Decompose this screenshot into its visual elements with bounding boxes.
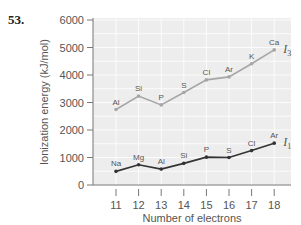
plot-area <box>93 18 291 185</box>
x-tick-label: 14 <box>178 199 190 211</box>
x-tick-label: 12 <box>132 199 144 211</box>
point-label: Cl <box>203 68 211 77</box>
point-label: Ca <box>269 38 280 47</box>
data-point <box>227 75 231 79</box>
data-point <box>205 78 209 82</box>
point-label: Cl <box>248 139 256 148</box>
point-label: S <box>181 81 186 90</box>
data-point <box>182 162 186 166</box>
x-tick-label: 11 <box>110 199 121 211</box>
x-tick-label: 15 <box>200 199 212 211</box>
x-tick-label: 13 <box>155 199 167 211</box>
point-label: P <box>204 145 209 154</box>
x-axis-title: Number of electrons <box>142 212 242 224</box>
point-label: Na <box>111 159 122 168</box>
data-point <box>182 91 186 95</box>
x-tick-label: 18 <box>268 199 280 211</box>
data-point <box>272 48 276 52</box>
point-label: Ar <box>225 65 233 74</box>
data-point <box>137 94 141 98</box>
point-label: K <box>249 52 255 61</box>
data-point <box>159 103 163 107</box>
y-tick-label: 0 <box>78 179 84 191</box>
y-tick-label: 1000 <box>60 152 84 164</box>
data-point <box>137 163 141 167</box>
point-label: Al <box>112 98 119 107</box>
y-tick-label: 6000 <box>60 14 84 26</box>
point-label: Ar <box>270 131 278 140</box>
data-point <box>205 155 209 159</box>
ionization-energy-chart: 0100020003000400050006000111213141516171… <box>0 0 301 225</box>
point-label: Si <box>180 151 187 160</box>
x-tick-label: 17 <box>245 199 257 211</box>
y-axis-title: Ionization energy (kJ/mol) <box>38 39 50 165</box>
data-point <box>114 108 118 112</box>
y-tick-label: 4000 <box>60 69 84 81</box>
point-label: S <box>226 146 231 155</box>
point-label: Mg <box>133 153 144 162</box>
x-tick-label: 16 <box>223 199 235 211</box>
data-point <box>159 167 163 171</box>
y-tick-label: 2000 <box>60 124 84 136</box>
data-point <box>250 62 254 66</box>
data-point <box>114 170 118 174</box>
y-tick-label: 3000 <box>60 97 84 109</box>
point-label: Al <box>158 157 165 166</box>
y-tick-label: 5000 <box>60 42 84 54</box>
data-point <box>227 156 231 160</box>
data-point <box>250 149 254 153</box>
point-label: Si <box>135 84 142 93</box>
point-label: P <box>159 93 164 102</box>
data-point <box>272 141 276 145</box>
